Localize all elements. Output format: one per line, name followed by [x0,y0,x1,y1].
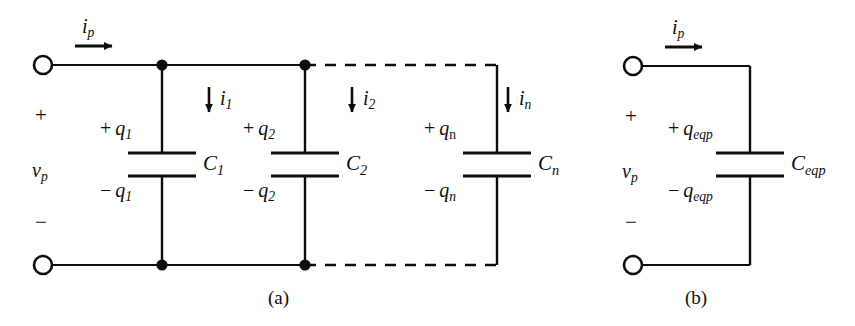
panel-a-branch-2-current-label: i2 [363,88,375,112]
panel-a-branch-n-charge-bottom: −qn [424,180,456,204]
panel-a-port-current-label: ip [82,16,94,40]
panel-a-branch-1-current-label: i1 [220,88,232,112]
panel-a-node-1-top [156,59,167,70]
panel-a-branch-n-charge-top: +qn [424,118,456,142]
panel-a-capacitor-1-label: C1 [203,153,224,177]
panel-a-branch-2-charge-bottom: −q2 [243,180,275,204]
panel-a-port-minus-sign: − [35,212,47,233]
panel-a-branch-2-charge-top: +q2 [243,118,275,142]
panel-b-port-minus-sign: − [625,212,637,233]
panel-a-capacitor-n-label: Cn [538,153,559,177]
panel-a-branch-n-current-label: in [519,88,531,112]
panel-a-node-2-top [299,59,310,70]
circuit-schematic-canvas [0,0,855,326]
panel-a-node-1-bottom [156,259,167,270]
panel-b-branch-eqp-charge-top: +qeqp [668,118,713,142]
panel-b-bottom-terminal [624,256,642,274]
panel-b-port-current-label: ip [672,17,684,41]
panel-a-bottom-terminal [34,256,52,274]
panel-a-port-plus-sign: + [35,105,47,126]
circuit-figure: ip + vp − i1 +q1 −q1 C1 i2 +q2 −q2 C2 in… [0,0,855,326]
panel-b-branch-eqp-charge-bottom: −qeqp [668,180,713,204]
panel-a-top-terminal [34,56,52,74]
panel-b-port-plus-sign: + [625,106,637,127]
panel-b-caption: (b) [685,288,707,307]
panel-a-branch-1-charge-bottom: −q1 [100,180,132,204]
panel-b-port-voltage-label: vp [622,161,638,185]
panel-a-node-2-bottom [299,259,310,270]
panel-a-branch-1-charge-top: +q1 [100,118,132,142]
panel-a-caption: (a) [268,288,289,307]
panel-b-top-terminal [624,57,642,75]
panel-b-capacitor-eqp-label: Ceqp [791,153,826,177]
panel-a-capacitor-2-label: C2 [346,153,367,177]
panel-a-port-voltage-label: vp [32,160,48,184]
